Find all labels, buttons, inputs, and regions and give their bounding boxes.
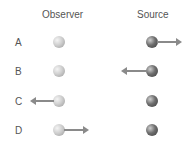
source-ball-d — [146, 124, 158, 136]
observer-header: Observer — [42, 9, 83, 20]
source-arrow-right-a — [157, 41, 178, 43]
observer-ball-b — [53, 65, 65, 77]
row-label-c: C — [15, 96, 22, 107]
row-label-d: D — [15, 125, 22, 136]
source-header: Source — [137, 9, 169, 20]
row-label-a: A — [15, 37, 22, 48]
source-ball-c — [146, 95, 158, 107]
source-ball-b — [146, 65, 158, 77]
row-label-b: B — [15, 66, 22, 77]
observer-arrow-left-c — [34, 100, 54, 102]
source-arrow-left-b — [125, 70, 147, 72]
observer-ball-c — [53, 95, 65, 107]
observer-arrow-right-d — [64, 129, 85, 131]
observer-ball-a — [53, 36, 65, 48]
